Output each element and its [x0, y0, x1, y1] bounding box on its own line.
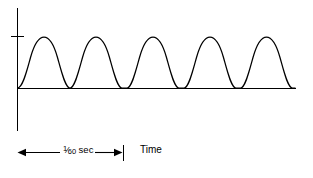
time-axis-label: Time: [140, 145, 162, 155]
rectified-sine-waveform: [18, 37, 296, 88]
arrow-right-icon: [114, 149, 123, 156]
period-denominator: 60: [68, 146, 77, 155]
period-fraction: 1⁄60: [63, 145, 76, 155]
period-label: 1⁄60sec: [63, 145, 94, 155]
arrow-left-icon: [18, 149, 27, 156]
period-unit: sec: [79, 144, 94, 155]
waveform-figure: 1⁄60sec Time: [0, 0, 313, 178]
